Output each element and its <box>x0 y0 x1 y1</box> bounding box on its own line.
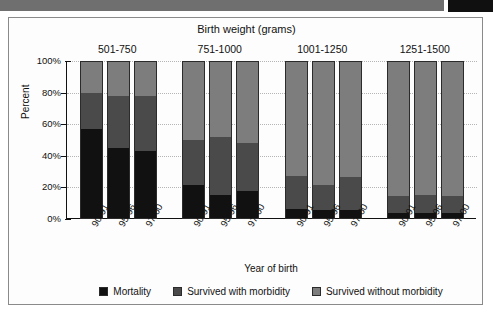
bar-segment-survived-without-morbidity <box>183 62 204 140</box>
legend-swatch-icon <box>312 287 321 296</box>
stacked-bar[interactable] <box>134 61 157 219</box>
bar-segment-survived-without-morbidity <box>388 62 409 196</box>
bar-segment-survived-with-morbidity <box>237 143 258 191</box>
bar-segment-survived-without-morbidity <box>210 62 231 137</box>
x-axis-tick-labels: 90-9195-9697-0090-9195-9697-0090-9195-96… <box>66 221 476 261</box>
x-tick-group-0: 90-9195-9697-00 <box>66 221 169 261</box>
legend-swatch-icon <box>99 287 108 296</box>
bar-segment-survived-with-morbidity <box>108 96 129 147</box>
x-tick-cell: 97-00 <box>133 221 156 261</box>
y-label-80: 80% <box>21 87 61 98</box>
banner-bar <box>0 0 444 11</box>
chart-title: Birth weight (grams) <box>9 23 484 35</box>
group-header-0: 501-750 <box>66 43 169 58</box>
group-header-3: 1251-1500 <box>374 43 477 58</box>
stacked-bar[interactable] <box>236 61 259 219</box>
banner-title <box>0 0 444 11</box>
y-tick-0 <box>65 219 71 220</box>
y-label-40: 40% <box>21 150 61 161</box>
stacked-bar[interactable] <box>339 61 362 219</box>
bar-group-0 <box>67 61 170 219</box>
banner-corner-block <box>448 0 493 12</box>
bar-group-1 <box>170 61 273 219</box>
legend-label: Survived without morbidity <box>326 286 443 297</box>
bar-segment-survived-without-morbidity <box>81 62 102 93</box>
plot-area <box>66 61 476 219</box>
figure-frame: Birth weight (grams) 501-750751-10001001… <box>8 17 483 305</box>
stacked-bar[interactable] <box>414 61 437 219</box>
bar-segment-survived-without-morbidity <box>135 62 156 96</box>
legend-item-1: Survived with morbidity <box>173 286 290 297</box>
x-tick-cell: 90-91 <box>181 221 204 261</box>
y-label-0: 0% <box>21 213 61 224</box>
y-label-20: 20% <box>21 181 61 192</box>
stacked-bar[interactable] <box>312 61 335 219</box>
bar-segment-survived-without-morbidity <box>237 62 258 143</box>
legend-item-2: Survived without morbidity <box>312 286 443 297</box>
x-tick-cell: 90-91 <box>386 221 409 261</box>
bar-segment-survived-with-morbidity <box>81 93 102 129</box>
bar-groups <box>67 61 477 219</box>
bar-segment-survived-without-morbidity <box>415 62 436 195</box>
legend-swatch-icon <box>173 287 182 296</box>
stacked-bar[interactable] <box>387 61 410 219</box>
bar-group-2 <box>272 61 375 219</box>
stacked-bar[interactable] <box>441 61 464 219</box>
stacked-bar[interactable] <box>209 61 232 219</box>
legend-item-0: Mortality <box>99 286 151 297</box>
x-tick-cell: 95-96 <box>208 221 231 261</box>
y-label-60: 60% <box>21 118 61 129</box>
bar-segment-survived-without-morbidity <box>313 62 334 185</box>
x-tick-cell: 97-00 <box>440 221 463 261</box>
x-axis-title: Year of birth <box>66 263 476 274</box>
page-banner-strip <box>0 0 493 13</box>
bar-segment-survived-without-morbidity <box>286 62 307 176</box>
bar-segment-survived-without-morbidity <box>108 62 129 96</box>
legend-label: Survived with morbidity <box>187 286 290 297</box>
stacked-bar[interactable] <box>80 61 103 219</box>
bar-segment-survived-with-morbidity <box>135 96 156 151</box>
x-tick-group-3: 90-9195-9697-00 <box>374 221 477 261</box>
x-tick-cell: 97-00 <box>338 221 361 261</box>
bar-segment-survived-with-morbidity <box>210 137 231 195</box>
stacked-bar[interactable] <box>285 61 308 219</box>
chart-legend: MortalitySurvived with morbiditySurvived… <box>66 283 476 299</box>
x-tick-cell: 95-96 <box>106 221 129 261</box>
bar-segment-survived-without-morbidity <box>442 62 463 196</box>
bar-segment-survived-with-morbidity <box>183 140 204 185</box>
x-tick-cell: 90-91 <box>284 221 307 261</box>
stacked-bar[interactable] <box>107 61 130 219</box>
x-tick-cell: 95-96 <box>413 221 436 261</box>
group-header-2: 1001-1250 <box>271 43 374 58</box>
group-header-1: 751-1000 <box>169 43 272 58</box>
x-tick-group-2: 90-9195-9697-00 <box>271 221 374 261</box>
y-label-100: 100% <box>21 55 61 66</box>
bar-segment-survived-without-morbidity <box>340 62 361 177</box>
x-tick-group-1: 90-9195-9697-00 <box>169 221 272 261</box>
group-header-row: 501-750751-10001001-12501251-1500 <box>66 43 476 58</box>
stacked-bar[interactable] <box>182 61 205 219</box>
legend-label: Mortality <box>113 286 151 297</box>
x-tick-cell: 95-96 <box>311 221 334 261</box>
x-tick-cell: 90-91 <box>79 221 102 261</box>
plot-region: Percent 0%20%40%60%80%100% <box>66 61 476 219</box>
bar-group-3 <box>375 61 478 219</box>
x-tick-cell: 97-00 <box>235 221 258 261</box>
